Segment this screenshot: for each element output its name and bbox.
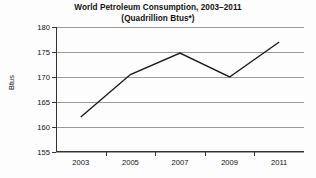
y-tick-label: 165 [37,98,50,107]
y-tick-label: 170 [37,73,50,82]
y-tick-label: 160 [37,123,50,132]
x-tick-label: 2005 [122,158,139,167]
x-tick-mark [155,152,156,156]
x-tick-mark [205,152,206,156]
plot-area: 180175170165160155 20032005200720092011 [56,27,304,152]
series-line [56,27,304,152]
line-chart: World Petroleum Consumption, 2003–2011 (… [0,0,316,178]
x-tick-mark [106,152,107,156]
x-tick-label: 2003 [72,158,89,167]
y-tick-label: 175 [37,48,50,57]
chart-title: World Petroleum Consumption, 2003–2011 [0,2,316,13]
y-tick-label: 155 [37,148,50,157]
y-tick-label: 180 [37,23,50,32]
gridline [56,152,304,153]
x-tick-label: 2011 [271,158,287,167]
chart-title-block: World Petroleum Consumption, 2003–2011 (… [0,2,316,24]
x-tick-mark [254,152,255,156]
y-axis-label: Btus [7,63,16,103]
y-tick-mark [52,152,56,153]
x-tick-label: 2009 [221,158,238,167]
x-tick-label: 2007 [172,158,189,167]
